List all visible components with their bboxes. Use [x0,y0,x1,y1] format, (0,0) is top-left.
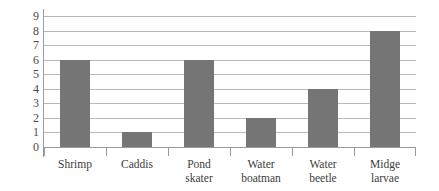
y-axis-tick-label: 6 [18,54,39,66]
x-axis-category-label: Waterbeetle [292,157,354,185]
bar [60,60,90,147]
category-label-line: Shrimp [58,158,92,170]
y-axis-tick-label: 1 [18,126,39,138]
bar-chart: 0123456789 ShrimpCaddisPondskaterWaterbo… [0,0,439,191]
x-axis-tick [230,147,231,156]
x-axis-category-label: Midgelarvae [354,157,416,185]
x-axis-category-label: Caddis [106,157,168,171]
category-label-line: larvae [354,171,416,185]
x-axis-ticks [44,147,416,156]
x-axis-tick [168,147,169,156]
category-label-line: Midge [370,158,400,170]
bar-chart-screenshot: 0123456789 ShrimpCaddisPondskaterWaterbo… [0,0,439,191]
category-label-line: skater [168,171,230,185]
y-axis-tick-labels: 0123456789 [18,9,39,154]
category-label-line: beetle [292,171,354,185]
category-label-line: boatman [230,171,292,185]
y-axis-tick-label: 9 [18,10,39,22]
category-label-line: Caddis [121,158,153,170]
bar [122,132,152,147]
x-axis-category-labels: ShrimpCaddisPondskaterWaterboatmanWaterb… [44,157,416,191]
bar [308,89,338,147]
bars [44,16,416,147]
x-axis-tick [354,147,355,156]
category-label-line: Pond [187,158,211,170]
bar [184,60,214,147]
x-axis-tick [415,147,416,156]
category-label-line: Water [309,158,336,170]
y-axis-tick-label: 8 [18,25,39,37]
y-axis-tick-label: 0 [18,141,39,153]
x-axis-category-label: Waterboatman [230,157,292,185]
y-axis-tick-label: 4 [18,83,39,95]
x-axis-category-label: Shrimp [44,157,106,171]
plot-area [44,16,416,147]
x-axis-category-label: Pondskater [168,157,230,185]
category-label-line: Water [247,158,274,170]
y-axis-tick-label: 7 [18,39,39,51]
y-axis-tick-label: 5 [18,68,39,80]
bar [246,118,276,147]
y-axis-tick-label: 3 [18,97,39,109]
y-axis-tick-label: 2 [18,112,39,124]
x-axis-tick [292,147,293,156]
x-axis-tick [44,147,45,156]
x-axis-tick [106,147,107,156]
bar [370,31,400,147]
